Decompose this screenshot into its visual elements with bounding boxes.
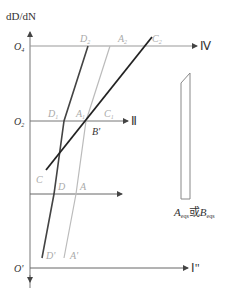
label-d2: D2 — [79, 33, 90, 45]
label-c: C — [36, 174, 43, 185]
y-axis-title: dD/dN — [6, 10, 36, 22]
eqs-caption: Aeqs或Beqs — [173, 206, 215, 219]
label-iv: Ⅳ — [200, 39, 211, 53]
label-d: D — [57, 181, 66, 192]
label-ii: Ⅱ — [131, 114, 137, 128]
line-c — [46, 37, 152, 170]
label-d-prime: D' — [45, 250, 56, 261]
label-a-prime: A' — [69, 250, 79, 261]
label-a2: A2 — [117, 33, 127, 45]
eqs-bar — [181, 73, 190, 199]
label-o4: O4 — [14, 41, 24, 53]
label-o2: O2 — [14, 116, 24, 128]
label-o-prime: O' — [14, 263, 24, 274]
label-c1: C1 — [104, 108, 114, 120]
label-a: A — [79, 181, 87, 192]
label-c2: C2 — [152, 33, 162, 45]
label-b-prime: B' — [92, 126, 101, 137]
line-a — [64, 46, 110, 258]
diagram-canvas: dD/dN O4 O2 O' Ⅳ Ⅱ Ⅰ'' D2 A2 C2 D1 A1 C1… — [0, 0, 230, 297]
label-a1: A1 — [75, 108, 85, 120]
label-i-prime: Ⅰ'' — [191, 261, 199, 275]
label-d1: D1 — [47, 108, 58, 120]
line-d — [42, 46, 88, 258]
